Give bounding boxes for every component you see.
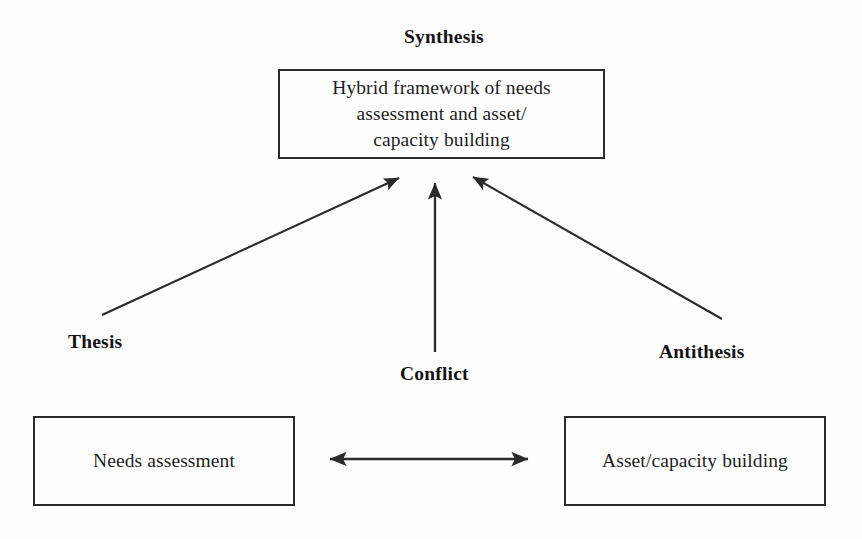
node-box-synthesis-text: Hybrid framework of needs assessment and… [332,75,551,152]
node-box-needs-assessment-text: Needs assessment [93,448,235,474]
stage-label-synthesis: Synthesis [404,26,484,48]
node-box-synthesis: Hybrid framework of needs assessment and… [278,69,605,159]
antithesis-to-synthesis-arrow [473,177,722,319]
node-box-asset-capacity-building: Asset/capacity building [564,416,826,506]
stage-label-antithesis: Antithesis [659,341,744,363]
diagram-canvas: Synthesis Hybrid framework of needs asse… [0,0,862,539]
thesis-to-synthesis-arrow [102,178,399,315]
node-box-asset-capacity-building-text: Asset/capacity building [602,448,788,474]
stage-label-conflict: Conflict [400,363,469,385]
stage-label-thesis: Thesis [68,331,122,353]
node-box-needs-assessment: Needs assessment [33,416,295,506]
